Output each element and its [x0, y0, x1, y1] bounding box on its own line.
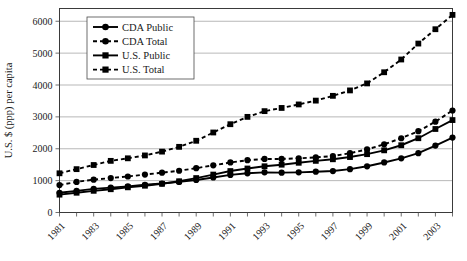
data-point	[227, 168, 233, 174]
data-point	[210, 130, 216, 136]
data-point	[91, 188, 97, 194]
data-point	[176, 168, 182, 174]
data-point	[347, 154, 353, 160]
y-tick-label: 0	[48, 207, 53, 218]
chart-legend: CDA PublicCDA TotalU.S. PublicU.S. Total	[87, 17, 194, 79]
y-axis-title: U.S. $ (ppp) per capita	[3, 62, 15, 158]
data-point	[381, 141, 387, 147]
data-point	[193, 165, 199, 171]
data-point	[296, 169, 302, 175]
data-point	[159, 149, 165, 155]
x-tick-label: 1987	[148, 220, 170, 242]
x-tick-label: 1989	[182, 220, 204, 242]
x-tick-label: 1985	[113, 220, 135, 242]
data-point	[227, 159, 233, 165]
series-cda-public	[56, 134, 455, 195]
legend-marker-circle	[102, 24, 109, 31]
data-point	[125, 173, 131, 179]
data-point	[381, 147, 387, 153]
data-point	[313, 158, 319, 164]
series-line	[60, 138, 453, 193]
data-point	[381, 159, 387, 165]
data-point	[142, 183, 148, 189]
data-point	[432, 142, 438, 148]
x-tick-label: 1995	[284, 220, 306, 242]
data-point	[125, 184, 131, 190]
legend-label: U.S. Total	[122, 64, 165, 75]
data-point	[347, 166, 353, 172]
data-point	[142, 153, 148, 159]
data-point	[261, 169, 267, 175]
x-tick-label: 1981	[45, 220, 67, 242]
data-point	[398, 155, 404, 161]
data-point	[210, 172, 216, 178]
data-point	[91, 177, 97, 183]
legend-marker-square	[102, 67, 108, 73]
data-point	[108, 175, 114, 181]
data-point	[330, 168, 336, 174]
series-line	[60, 120, 453, 195]
data-point	[57, 192, 63, 198]
data-point	[193, 175, 199, 181]
y-tick-label: 3000	[33, 111, 53, 122]
data-point	[159, 170, 165, 176]
legend-label: CDA Public	[122, 22, 173, 33]
data-point	[245, 166, 251, 172]
data-point	[176, 178, 182, 184]
data-point	[449, 107, 455, 113]
data-point	[364, 151, 370, 157]
legend-marker-circle	[102, 38, 109, 45]
y-tick-labels: 0100020003000400050006000	[33, 16, 53, 218]
data-point	[296, 102, 302, 108]
data-point	[279, 105, 285, 111]
x-tick-label: 2003	[421, 220, 443, 242]
x-tick-label: 1991	[216, 220, 238, 242]
x-tick-label: 1983	[79, 220, 101, 242]
data-point	[142, 171, 148, 177]
data-point	[244, 157, 250, 163]
data-point	[74, 190, 80, 196]
line-chart: 0100020003000400050006000 19811983198519…	[0, 0, 467, 261]
data-point	[330, 156, 336, 162]
data-point	[279, 156, 285, 162]
data-point	[432, 119, 438, 125]
data-point	[296, 160, 302, 166]
y-tick-label: 2000	[33, 143, 53, 154]
data-point	[449, 134, 455, 140]
series-u-s-public	[57, 117, 456, 197]
legend-marker-square	[102, 52, 108, 58]
data-point	[415, 135, 421, 141]
data-point	[398, 57, 404, 63]
data-point	[262, 163, 268, 169]
data-point	[73, 179, 79, 185]
data-point	[415, 150, 421, 156]
x-tick-label: 1993	[250, 220, 272, 242]
data-point	[108, 186, 114, 192]
data-point	[347, 88, 353, 94]
chart-container: 0100020003000400050006000 19811983198519…	[0, 0, 467, 261]
data-point	[313, 98, 319, 104]
data-point	[108, 158, 114, 164]
data-point	[262, 108, 268, 114]
data-point	[330, 93, 336, 99]
data-point	[313, 169, 319, 175]
data-point	[279, 170, 285, 176]
data-point	[125, 155, 131, 161]
data-point	[159, 181, 165, 187]
y-tick-label: 1000	[33, 175, 53, 186]
data-point	[398, 135, 404, 141]
data-point	[176, 144, 182, 150]
x-tick-labels: 1981198319851987198919911993199519971999…	[45, 220, 443, 242]
data-point	[91, 162, 97, 168]
data-point	[450, 117, 456, 123]
data-point	[261, 156, 267, 162]
x-tick-label: 2001	[387, 220, 409, 242]
data-point	[210, 162, 216, 168]
data-point	[450, 12, 456, 18]
y-tick-label: 5000	[33, 48, 53, 59]
data-point	[398, 142, 404, 148]
data-point	[279, 162, 285, 168]
y-tick-label: 4000	[33, 80, 53, 91]
data-point	[56, 182, 62, 188]
data-point	[227, 121, 233, 127]
